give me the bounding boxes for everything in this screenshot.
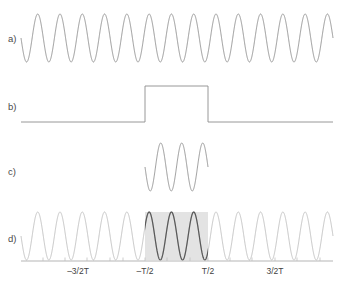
axis-tick-label: 3/2T: [266, 266, 283, 276]
axis-tick-label: T/2: [202, 266, 215, 276]
panel-label-c: c): [8, 166, 16, 177]
panel-label-d: d): [8, 233, 16, 244]
figure-canvas: a)b)c)–3/2T–T/2T/23/2Td): [0, 0, 343, 288]
panel-label-a: a): [8, 33, 16, 44]
axis-tick-label: –T/2: [136, 266, 153, 276]
panel-label-b: b): [8, 101, 16, 112]
waveform-figure: a)b)c)–3/2T–T/2T/23/2Td): [0, 0, 343, 288]
axis-tick-label: –3/2T: [67, 266, 89, 276]
